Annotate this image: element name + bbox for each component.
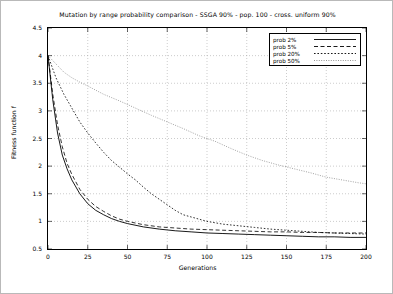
x-tick-label: 50 <box>116 253 140 260</box>
legend-item: prob 20% <box>273 50 357 57</box>
x-tick-label: 100 <box>195 253 219 260</box>
y-tick-label: 1 <box>12 217 42 224</box>
x-tick-label: 0 <box>36 253 60 260</box>
x-tick-label: 150 <box>275 253 299 260</box>
legend-line-sample <box>313 57 357 64</box>
legend-label: prob 5% <box>273 44 313 50</box>
legend-line-sample <box>313 50 357 57</box>
legend-item: prob 2% <box>273 36 357 43</box>
y-tick-label: 4 <box>12 52 42 59</box>
chart-legend: prob 2%prob 5%prob 20%prob 50% <box>269 33 361 66</box>
x-axis-label: Generations <box>1 264 393 271</box>
y-tick-label: 2.5 <box>12 135 42 142</box>
x-tick-label: 125 <box>235 253 259 260</box>
x-tick-label: 25 <box>76 253 100 260</box>
legend-item: prob 5% <box>273 43 357 50</box>
chart-title: Mutation by range probability comparison… <box>1 11 393 18</box>
y-tick-label: 3 <box>12 107 42 114</box>
legend-line-sample <box>313 43 357 50</box>
x-tick-label: 75 <box>155 253 179 260</box>
y-tick-label: 3.5 <box>12 79 42 86</box>
y-tick-label: 2 <box>12 162 42 169</box>
y-tick-label: 4.5 <box>12 24 42 31</box>
legend-item: prob 50% <box>273 57 357 64</box>
chart-figure: Mutation by range probability comparison… <box>0 0 393 294</box>
y-tick-label: 1.5 <box>12 190 42 197</box>
x-tick-label: 175 <box>314 253 338 260</box>
x-tick-label: 200 <box>354 253 378 260</box>
legend-line-sample <box>313 36 357 43</box>
y-tick-label: 0.5 <box>12 245 42 252</box>
legend-label: prob 50% <box>273 58 313 64</box>
legend-label: prob 2% <box>273 37 313 43</box>
legend-label: prob 20% <box>273 51 313 57</box>
